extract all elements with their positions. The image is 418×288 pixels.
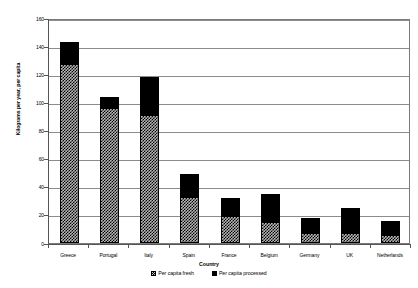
bar-segment-fresh[interactable] xyxy=(100,108,119,243)
bar-segment-fresh[interactable] xyxy=(381,235,400,243)
bar-segment-fresh[interactable] xyxy=(140,115,159,243)
x-axis-tick-mark xyxy=(209,244,210,248)
chart-legend: Per capita freshPer capita processed xyxy=(0,270,418,276)
bar-group[interactable] xyxy=(381,18,400,243)
bar-group[interactable] xyxy=(180,18,199,243)
y-axis-tick-mark xyxy=(44,131,48,132)
bar-chart: 020406080100120140160 Kilograms per year… xyxy=(0,0,418,288)
bar-segment-fresh[interactable] xyxy=(221,216,240,243)
x-axis-tick-label: France xyxy=(209,252,249,258)
x-axis-tick-label: Portugal xyxy=(88,252,128,258)
x-axis-tick-mark xyxy=(330,244,331,248)
checkered-swatch-icon xyxy=(151,271,156,276)
x-axis-tick-mark xyxy=(128,244,129,248)
y-axis-tick-label: 60 xyxy=(22,157,44,162)
x-axis-line xyxy=(48,244,410,245)
y-axis-tick-label: 20 xyxy=(22,213,44,218)
y-axis-tick-label: 160 xyxy=(22,17,44,22)
y-axis-tick-mark xyxy=(44,103,48,104)
y-axis-tick-label: 80 xyxy=(22,129,44,134)
bar-segment-processed[interactable] xyxy=(301,218,320,233)
y-axis-tick-mark xyxy=(44,75,48,76)
bars-layer xyxy=(49,20,409,243)
bar-segment-processed[interactable] xyxy=(221,198,240,216)
y-axis-tick-labels: 020406080100120140160 xyxy=(0,0,44,288)
x-axis-tick-label: Belgium xyxy=(249,252,289,258)
bar-segment-processed[interactable] xyxy=(100,97,119,108)
y-axis-tick-label: 120 xyxy=(22,73,44,78)
bar-segment-fresh[interactable] xyxy=(341,233,360,243)
bar-segment-fresh[interactable] xyxy=(301,233,320,243)
plot-area xyxy=(48,19,410,244)
legend-item[interactable]: Per capita fresh xyxy=(151,270,194,276)
bar-segment-fresh[interactable] xyxy=(261,222,280,243)
x-axis-tick-label: Germany xyxy=(289,252,329,258)
x-axis-tick-label: Italy xyxy=(128,252,168,258)
x-axis-tick-mark xyxy=(370,244,371,248)
x-axis-tick-label: Spain xyxy=(169,252,209,258)
x-axis-tick-mark xyxy=(289,244,290,248)
x-axis-tick-label: UK xyxy=(330,252,370,258)
bar-segment-fresh[interactable] xyxy=(180,197,199,243)
bar-group[interactable] xyxy=(100,18,119,243)
bar-group[interactable] xyxy=(60,18,79,243)
y-axis-tick-mark xyxy=(44,159,48,160)
bar-group[interactable] xyxy=(261,18,280,243)
x-axis-tick-mark xyxy=(88,244,89,248)
bar-segment-processed[interactable] xyxy=(60,42,79,65)
y-axis-title: Kilograms per year, per capita xyxy=(15,29,21,169)
y-axis-tick-label: 100 xyxy=(22,101,44,106)
y-axis-tick-label: 140 xyxy=(22,45,44,50)
legend-item[interactable]: Per capita processed xyxy=(212,270,267,276)
bar-segment-processed[interactable] xyxy=(261,194,280,222)
x-axis-tick-mark xyxy=(48,244,49,248)
x-axis-tick-label: Greece xyxy=(48,252,88,258)
y-axis-tick-label: 40 xyxy=(22,185,44,190)
y-axis-tick-label: 0 xyxy=(22,242,44,247)
y-axis-tick-mark xyxy=(44,215,48,216)
bar-segment-processed[interactable] xyxy=(381,221,400,235)
y-axis-tick-mark xyxy=(44,19,48,20)
bar-group[interactable] xyxy=(301,18,320,243)
x-axis-tick-mark xyxy=(249,244,250,248)
y-axis-tick-mark xyxy=(44,187,48,188)
x-axis-title: Country xyxy=(0,261,418,267)
bar-group[interactable] xyxy=(341,18,360,243)
y-axis-tick-mark xyxy=(44,47,48,48)
bar-segment-processed[interactable] xyxy=(341,208,360,233)
bar-group[interactable] xyxy=(140,18,159,243)
y-axis-line xyxy=(48,19,49,245)
x-axis-tick-mark xyxy=(410,244,411,248)
bar-group[interactable] xyxy=(221,18,240,243)
x-axis-tick-mark xyxy=(169,244,170,248)
legend-item-label: Per capita fresh xyxy=(158,270,194,276)
solid-swatch-icon xyxy=(212,271,217,276)
legend-item-label: Per capita processed xyxy=(219,270,267,276)
x-axis-tick-label: Netherlands xyxy=(370,252,410,258)
bar-segment-processed[interactable] xyxy=(140,77,159,115)
bar-segment-processed[interactable] xyxy=(180,174,199,197)
bar-segment-fresh[interactable] xyxy=(60,64,79,243)
